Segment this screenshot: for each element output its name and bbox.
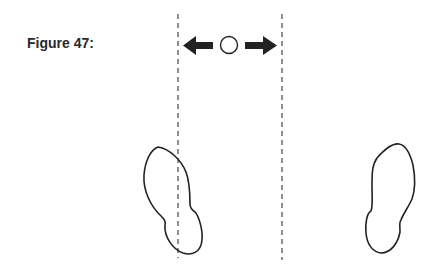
left-arrow-icon <box>183 36 213 55</box>
left-footprint-icon <box>144 147 202 254</box>
center-circle-icon <box>221 37 238 54</box>
figure-diagram <box>0 0 439 270</box>
right-footprint-icon <box>366 144 415 253</box>
right-arrow-icon <box>245 36 277 55</box>
